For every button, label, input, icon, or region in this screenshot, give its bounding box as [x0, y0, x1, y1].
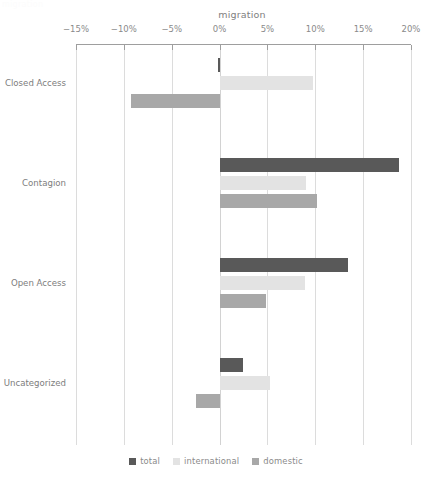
- chart-title-text: migration: [218, 9, 266, 20]
- x-tick-label: 0%: [213, 24, 227, 34]
- migration-bar-chart: migration migration −15%−10%−5%0%5%10%15…: [0, 0, 432, 478]
- y-axis-category-label: Open Access: [11, 278, 66, 288]
- gridline: [172, 50, 173, 445]
- legend-label: domestic: [263, 456, 303, 466]
- legend-label: international: [184, 456, 239, 466]
- bar: [196, 394, 220, 408]
- legend-item[interactable]: international: [173, 456, 239, 466]
- bar: [218, 58, 220, 72]
- y-axis-category-label: Contagion: [22, 178, 66, 188]
- bar: [220, 358, 243, 372]
- y-axis-category-label: Closed Access: [5, 78, 66, 88]
- legend-item[interactable]: total: [129, 456, 160, 466]
- bar: [220, 76, 314, 90]
- plot-area: [76, 44, 411, 445]
- legend-label: total: [140, 456, 160, 466]
- x-tick-label: 5%: [261, 24, 275, 34]
- gridline: [315, 50, 316, 445]
- gridline: [124, 50, 125, 445]
- gridline: [411, 50, 412, 445]
- legend-item[interactable]: domestic: [252, 456, 303, 466]
- legend-swatch-icon: [129, 458, 136, 465]
- bar: [131, 94, 220, 108]
- bar: [220, 176, 306, 190]
- x-tick-label: −15%: [63, 24, 89, 34]
- ghost-artifact-text: migration: [2, 0, 43, 9]
- bar: [220, 294, 266, 308]
- chart-legend: totalinternationaldomestic: [0, 456, 432, 466]
- x-tick-label: 10%: [306, 24, 325, 34]
- chart-title: migration: [0, 9, 432, 20]
- bar: [220, 158, 399, 172]
- x-tick-label: −10%: [111, 24, 137, 34]
- bar: [220, 194, 318, 208]
- x-tick-label: 20%: [402, 24, 421, 34]
- gridline: [363, 50, 364, 445]
- x-axis-tick-labels: −15%−10%−5%0%5%10%15%20%: [0, 24, 432, 36]
- y-axis-category-label: Uncategorized: [4, 378, 66, 388]
- legend-swatch-icon: [173, 458, 180, 465]
- bar: [220, 258, 348, 272]
- x-tick-label: −5%: [161, 24, 182, 34]
- x-axis-line: [76, 44, 411, 45]
- x-tick-label: 15%: [354, 24, 373, 34]
- bar: [220, 376, 271, 390]
- bar: [220, 276, 305, 290]
- legend-swatch-icon: [252, 458, 259, 465]
- gridline: [76, 50, 77, 445]
